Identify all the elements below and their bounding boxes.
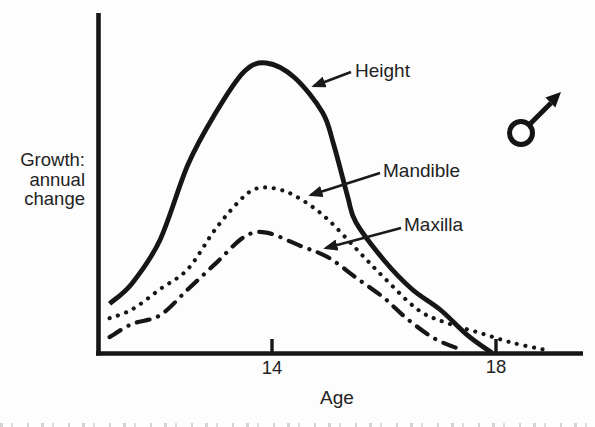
x-tick-label-14: 14 (255, 357, 289, 379)
male-icon (510, 92, 562, 145)
mandible-curve (110, 187, 547, 350)
y-axis-label-line2: annual (0, 170, 85, 190)
height-annotation: Height (355, 61, 410, 81)
growth-velocity-figure: Growth: annual change Height Mandible Ma… (0, 0, 595, 427)
x-axis-label: Age (306, 387, 368, 409)
x-tick-label-18: 18 (479, 356, 513, 378)
y-axis-label-line3: change (0, 189, 85, 209)
maxilla-curve (110, 232, 463, 350)
height-arrow (314, 72, 351, 86)
maxilla-annotation: Maxilla (404, 215, 463, 235)
mandible-annotation: Mandible (383, 161, 460, 181)
y-axis-label: Growth: annual change (0, 150, 85, 209)
cropped-caption-fragment (0, 423, 595, 427)
y-axis-label-line1: Growth: (0, 150, 85, 170)
